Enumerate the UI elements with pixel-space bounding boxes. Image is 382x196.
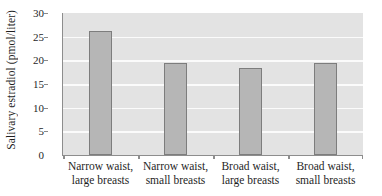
x-tick-mark — [288, 155, 290, 159]
x-tick-label-line: Broad waist, — [296, 160, 356, 174]
x-tick-label-line: Narrow waist, — [68, 160, 133, 174]
y-tick-label: 15 — [33, 78, 44, 90]
y-tick-mark — [44, 84, 48, 85]
x-tick-mark — [138, 155, 140, 159]
y-tick-mark — [44, 131, 48, 132]
x-tick-mark — [63, 155, 65, 159]
x-tick-label-line: small breasts — [143, 174, 208, 188]
x-tick-label-line: Narrow waist, — [143, 160, 208, 174]
x-tick-label: Broad waist,small breasts — [296, 160, 356, 187]
y-tick-label: 10 — [33, 102, 44, 114]
x-tick-label: Narrow waist,small breasts — [143, 160, 208, 187]
x-tick-label-line: large breasts — [68, 174, 133, 188]
y-tick-label: 25 — [33, 31, 44, 43]
x-tick-label-line: Broad waist, — [221, 160, 279, 174]
bar — [89, 31, 112, 155]
y-tick-label: 0 — [39, 149, 45, 161]
y-tick-mark — [44, 37, 48, 38]
x-tick-label: Narrow waist,large breasts — [68, 160, 133, 187]
chart-figure: Salivary estradiol (pmol/liter) 05101520… — [0, 0, 382, 196]
bar — [164, 63, 187, 155]
y-axis-label: Salivary estradiol (pmol/liter) — [5, 10, 17, 150]
y-tick-mark — [44, 13, 48, 14]
plot-area — [63, 13, 363, 155]
y-tick-mark — [44, 108, 48, 109]
bar — [239, 68, 262, 155]
y-tick-label: 30 — [33, 7, 44, 19]
y-tick-label: 20 — [33, 54, 44, 66]
y-axis-ticks: 051015202530 — [22, 0, 48, 160]
x-axis-ticks: Narrow waist,large breastsNarrow waist,s… — [63, 155, 363, 196]
x-tick-mark — [362, 155, 364, 159]
x-tick-label-line: small breasts — [296, 174, 356, 188]
x-tick-mark — [213, 155, 215, 159]
y-tick-mark — [44, 60, 48, 61]
bar — [314, 63, 337, 155]
y-axis-label-container: Salivary estradiol (pmol/liter) — [0, 0, 22, 160]
x-tick-label-line: large breasts — [221, 174, 279, 188]
x-tick-label: Broad waist,large breasts — [221, 160, 279, 187]
